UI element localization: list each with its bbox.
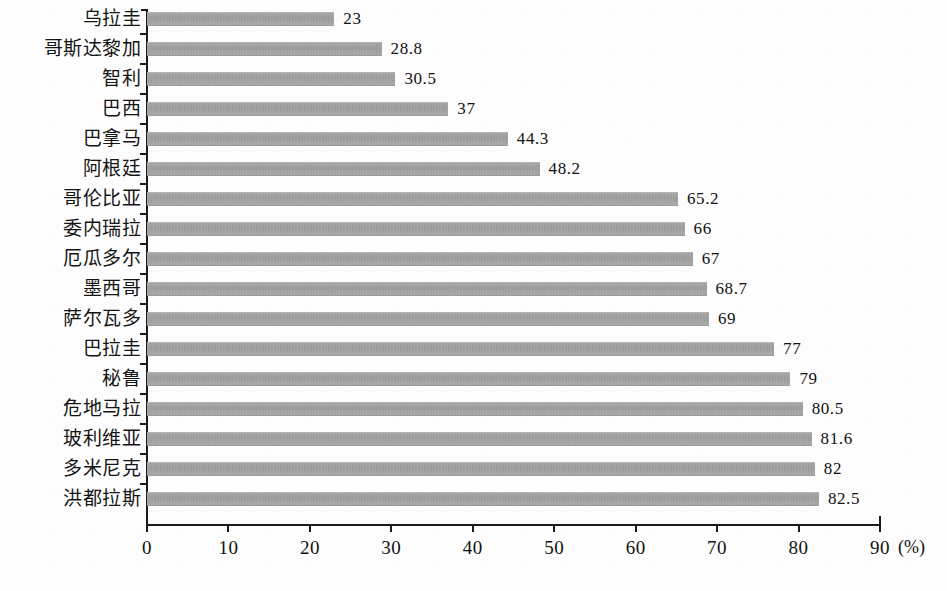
- bar-value-label: 23: [343, 10, 361, 27]
- y-axis-tick: [140, 393, 147, 395]
- x-axis-tick: [879, 524, 881, 532]
- y-axis-line: [146, 9, 148, 525]
- bar-value-label: 44.3: [517, 130, 549, 147]
- y-axis-tick: [140, 273, 147, 275]
- x-axis-tick: [716, 524, 718, 532]
- bar: [147, 492, 819, 506]
- bar: [147, 342, 774, 356]
- bar-value-label: 80.5: [812, 400, 844, 417]
- category-label: 阿根廷: [0, 159, 141, 178]
- y-axis-tick: [140, 303, 147, 305]
- x-axis-tick-label: 60: [626, 538, 646, 557]
- x-axis-tick: [146, 524, 148, 532]
- category-label: 危地马拉: [0, 399, 141, 418]
- bar-value-label: 37: [457, 100, 475, 117]
- bar: [147, 282, 707, 296]
- bar-value-label: 48.2: [549, 160, 581, 177]
- x-axis-tick-label: 50: [544, 538, 564, 557]
- category-axis-labels: 乌拉圭哥斯达黎加智利巴西巴拿马阿根廷哥伦比亚委内瑞拉厄瓜多尔墨西哥萨尔瓦多巴拉圭…: [0, 0, 141, 591]
- bar-value-label: 28.8: [391, 40, 423, 57]
- bar-value-label: 69: [718, 310, 736, 327]
- x-axis-tick: [472, 524, 474, 532]
- bar-value-label: 81.6: [821, 430, 853, 447]
- category-label: 厄瓜多尔: [0, 249, 141, 268]
- bar-chart: 乌拉圭哥斯达黎加智利巴西巴拿马阿根廷哥伦比亚委内瑞拉厄瓜多尔墨西哥萨尔瓦多巴拉圭…: [0, 0, 947, 591]
- y-axis-tick: [140, 213, 147, 215]
- bar-value-label: 82: [824, 460, 842, 477]
- category-label: 玻利维亚: [0, 429, 141, 448]
- bar-value-label: 66: [694, 220, 712, 237]
- bar: [147, 402, 803, 416]
- bar-value-label: 77: [783, 340, 801, 357]
- bar: [147, 42, 382, 56]
- bar: [147, 72, 395, 86]
- bar: [147, 252, 693, 266]
- bar-value-label: 30.5: [404, 70, 436, 87]
- x-axis-tick-label: 30: [381, 538, 401, 557]
- y-axis-tick: [140, 453, 147, 455]
- x-axis-tick-label: 40: [463, 538, 483, 557]
- x-axis-tick-label: 70: [707, 538, 727, 557]
- category-label: 巴拉圭: [0, 339, 141, 358]
- y-axis-tick: [140, 363, 147, 365]
- x-axis-tick-label: 80: [789, 538, 809, 557]
- y-axis-top-cap: [141, 9, 148, 11]
- bar: [147, 372, 790, 386]
- category-label: 哥斯达黎加: [0, 39, 141, 58]
- bar-value-label: 79: [799, 370, 817, 387]
- category-label: 萨尔瓦多: [0, 309, 141, 328]
- category-label: 智利: [0, 69, 141, 88]
- x-axis-tick-label: 10: [218, 538, 238, 557]
- x-axis-unit-label: (%): [898, 538, 925, 557]
- y-axis-tick: [140, 483, 147, 485]
- bar: [147, 462, 815, 476]
- x-axis-tick: [553, 524, 555, 532]
- y-axis-tick: [140, 153, 147, 155]
- x-axis-tick-label: 20: [300, 538, 320, 557]
- y-axis-tick: [140, 423, 147, 425]
- category-label: 哥伦比亚: [0, 189, 141, 208]
- x-axis-tick: [390, 524, 392, 532]
- x-axis-tick: [798, 524, 800, 532]
- x-axis-tick: [227, 524, 229, 532]
- category-label: 乌拉圭: [0, 9, 141, 28]
- category-label: 墨西哥: [0, 279, 141, 298]
- bar: [147, 432, 812, 446]
- category-label: 委内瑞拉: [0, 219, 141, 238]
- bar: [147, 12, 334, 26]
- category-label: 多米尼克: [0, 459, 141, 478]
- bar: [147, 312, 709, 326]
- y-axis-tick: [140, 63, 147, 65]
- bar: [147, 102, 448, 116]
- x-axis-tick-label: 0: [142, 538, 152, 557]
- x-axis-tick-label: 90: [870, 538, 890, 557]
- category-label: 秘鲁: [0, 369, 141, 388]
- bar-value-label: 68.7: [716, 280, 748, 297]
- x-axis-tick: [309, 524, 311, 532]
- y-axis-tick: [140, 93, 147, 95]
- x-axis-tick: [635, 524, 637, 532]
- category-label: 洪都拉斯: [0, 489, 141, 508]
- y-axis-tick: [140, 243, 147, 245]
- bar-value-label: 67: [702, 250, 720, 267]
- bar-value-label: 82.5: [828, 490, 860, 507]
- bar: [147, 162, 540, 176]
- bar: [147, 132, 508, 146]
- y-axis-tick: [140, 33, 147, 35]
- bar: [147, 192, 678, 206]
- category-label: 巴西: [0, 99, 141, 118]
- bar: [147, 222, 685, 236]
- category-label: 巴拿马: [0, 129, 141, 148]
- y-axis-tick: [140, 183, 147, 185]
- y-axis-tick: [140, 123, 147, 125]
- bar-value-label: 65.2: [687, 190, 719, 207]
- x-axis-line: [146, 524, 881, 526]
- y-axis-tick: [140, 333, 147, 335]
